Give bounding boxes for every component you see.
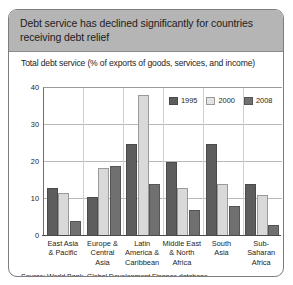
legend-swatch-icon — [169, 97, 178, 105]
bar-1995-2 — [87, 197, 98, 236]
y-tick-label: 20 — [17, 157, 39, 166]
bar-2000-2 — [98, 168, 109, 236]
legend-item-2008[interactable]: 2008 — [244, 96, 272, 105]
legend-item-1995[interactable]: 1995 — [169, 96, 197, 105]
y-tick-label: 10 — [17, 194, 39, 203]
bar-1995-6 — [245, 184, 256, 236]
bar-1995-3 — [126, 144, 137, 237]
group-separator — [243, 88, 244, 236]
y-tick-label: 0 — [17, 231, 39, 240]
bar-2008-3 — [149, 184, 160, 236]
group-separator — [203, 88, 204, 236]
legend-label: 2000 — [218, 96, 234, 105]
x-axis-label-line: Africa — [158, 258, 206, 267]
legend-item-2000[interactable]: 2000 — [206, 96, 234, 105]
y-tick-label: 40 — [17, 83, 39, 92]
bar-2000-5 — [217, 184, 228, 236]
legend-swatch-icon — [206, 97, 215, 105]
legend-label: 2008 — [256, 96, 272, 105]
bar-1995-4 — [166, 162, 177, 236]
group-separator — [123, 88, 124, 236]
x-axis-label-line: Sub- — [237, 239, 284, 248]
bar-2000-6 — [257, 195, 268, 236]
bar-2008-4 — [189, 210, 200, 236]
bar-2008-5 — [229, 206, 240, 236]
plot-area — [43, 87, 282, 236]
bar-1995-1 — [47, 188, 58, 236]
bar-2008-1 — [70, 221, 81, 236]
legend-swatch-icon — [244, 97, 253, 105]
x-axis-line — [42, 235, 281, 236]
chart-legend: 1995 2000 2008 — [169, 96, 272, 105]
group-separator — [163, 88, 164, 236]
group-separator — [83, 88, 84, 236]
bar-2000-4 — [177, 188, 188, 236]
bar-1995-5 — [206, 144, 217, 237]
chart-subtitle: Total debt service (% of exports of good… — [21, 58, 279, 68]
x-axis-label-line: Africa — [237, 258, 284, 267]
bar-2008-2 — [110, 166, 121, 236]
title-banner: Debt service has declined significantly … — [9, 10, 284, 52]
chart-source: Source: World Bank, Global Development F… — [21, 272, 208, 277]
x-axis-label-line: Saharan — [237, 248, 284, 257]
chart-figure: Debt service has declined significantly … — [8, 9, 284, 277]
y-tick-label: 30 — [17, 120, 39, 129]
x-axis-label: Sub-SaharanAfrica — [237, 239, 284, 267]
bar-2000-3 — [138, 95, 149, 236]
page-title: Debt service has declined significantly … — [20, 16, 272, 44]
bar-2000-1 — [58, 193, 69, 236]
legend-label: 1995 — [181, 96, 197, 105]
